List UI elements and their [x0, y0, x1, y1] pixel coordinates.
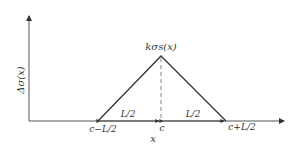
tick-center-label: c	[159, 123, 164, 133]
left-half-width-label: L/2	[120, 109, 136, 119]
triangular-distribution-diagram: Δσ(x) kσs(x) L/2 L/2 c−L/2 c c+L/2 x	[0, 0, 288, 154]
tick-left-label: c−L/2	[89, 124, 117, 134]
y-axis-label: Δσ(x)	[15, 66, 26, 95]
tick-right-label: c+L/2	[228, 122, 256, 132]
x-axis-label: x	[150, 133, 156, 144]
right-half-width-label: L/2	[185, 109, 201, 119]
apex-label: kσs(x)	[145, 41, 177, 52]
triangle-profile	[98, 56, 226, 121]
